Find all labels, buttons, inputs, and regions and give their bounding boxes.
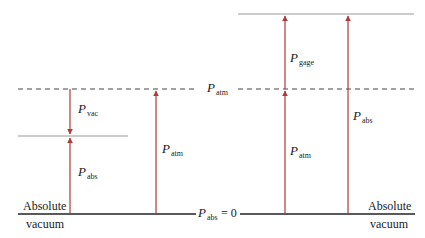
right-absolute-label: Absolute — [368, 199, 411, 214]
symbol: P — [78, 101, 86, 116]
subscript: vac — [87, 109, 98, 118]
symbol: P — [290, 50, 298, 65]
subscript: atm — [216, 88, 228, 97]
subscript: abs — [207, 213, 218, 222]
center-pabs-zero-label: Pabs = 0 — [198, 205, 237, 221]
left-patm-label: Patm — [162, 141, 183, 157]
subscript: abs — [362, 116, 373, 125]
right-vacuum-label: vacuum — [370, 217, 408, 232]
subscript: atm — [171, 149, 183, 158]
right-pabs-label: Pabs — [353, 108, 373, 124]
equals-zero: = 0 — [221, 206, 237, 220]
symbol: P — [78, 164, 86, 179]
left-vacuum-label: vacuum — [26, 217, 64, 232]
left-absolute-label: Absolute — [23, 199, 66, 214]
symbol: P — [290, 143, 298, 158]
subscript: atm — [299, 151, 311, 160]
symbol: P — [198, 205, 206, 220]
left-pvac-label: Pvac — [78, 101, 98, 117]
subscript: gage — [299, 58, 314, 67]
symbol: P — [353, 108, 361, 123]
right-patm-label: Patm — [290, 143, 311, 159]
symbol: P — [162, 141, 170, 156]
right-pgage-label: Pgage — [290, 50, 314, 66]
left-pabs-label: Pabs — [78, 164, 98, 180]
symbol: P — [207, 80, 215, 95]
subscript: abs — [87, 172, 98, 181]
center-patm-label: Patm — [207, 80, 228, 96]
